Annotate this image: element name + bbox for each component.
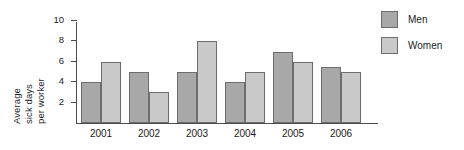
bar-women-2006 [341,72,361,123]
plot-area: 108642 200120022003200420052006 [76,20,366,124]
x-axis-label-2001: 2001 [79,128,123,139]
x-axis-label-2006: 2006 [319,128,363,139]
bar-group-2002: 2002 [127,20,171,123]
y-tick-label-10: 10 [53,15,64,25]
bar-men-2004 [225,82,245,123]
x-axis-label-2002: 2002 [127,128,171,139]
x-axis-label-2004: 2004 [223,128,267,139]
legend-swatch-women-icon [381,37,398,54]
x-axis-label-2005: 2005 [271,128,315,139]
y-axis-title: Average sick days per worker [8,28,56,124]
bar-group-2004: 2004 [223,20,267,123]
bar-men-2003 [177,72,197,123]
y-axis-title-line-1: Average [11,88,22,124]
bar-group-2003: 2003 [175,20,219,123]
bar-women-2001 [101,62,121,123]
bar-group-2005: 2005 [271,20,315,123]
bar-women-2005 [293,62,313,123]
bar-men-2002 [129,72,149,123]
bar-group-2006: 2006 [319,20,363,123]
chart-legend: Men Women [381,11,461,63]
legend-label-men: Men [408,14,427,25]
bar-women-2004 [245,72,265,123]
bar-men-2001 [81,82,101,123]
y-axis-title-line-3: per worker [35,78,46,124]
legend-label-women: Women [408,40,442,51]
y-tick-label-6: 6 [59,56,64,66]
bar-groups: 200120022003200420052006 [77,20,366,123]
bar-chart: Average sick days per worker 108642 2001… [0,0,464,150]
bar-men-2005 [273,52,293,123]
legend-item-women: Women [381,37,461,54]
legend-item-men: Men [381,11,461,28]
x-axis-line [76,123,378,124]
bar-women-2002 [149,92,169,123]
bar-men-2006 [321,67,341,123]
legend-swatch-men-icon [381,11,398,28]
y-tick-label-8: 8 [59,36,64,46]
y-axis-title-line-2: sick days [23,84,34,124]
x-axis-label-2003: 2003 [175,128,219,139]
y-tick-label-4: 4 [59,76,64,86]
bar-women-2003 [197,41,217,123]
y-tick-label-2: 2 [59,97,64,107]
bar-group-2001: 2001 [79,20,123,123]
